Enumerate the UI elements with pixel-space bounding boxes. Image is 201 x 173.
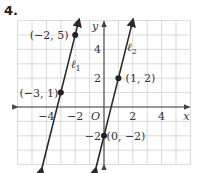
y-axis-label: y [91,20,99,33]
point-label: (0, −2) [107,130,146,143]
y-tick-label: 4 [94,43,101,56]
coordinate-plane: −4−224−224Oxy(−2, 5)(−3, 1)(1, 2)(0, −2)… [0,0,201,173]
point-label: (1, 2) [126,72,156,85]
x-axis-label: x [183,110,190,123]
point [115,75,121,81]
x-tick-label: −2 [67,110,83,123]
line-label: ℓ1 [71,58,81,73]
x-tick-label: 2 [129,110,136,123]
line-label: ℓ2 [127,41,137,56]
x-tick-label: −4 [38,110,54,123]
point-label: (−3, 1) [19,87,58,100]
y-tick-label: 2 [94,72,101,85]
y-tick-label: −2 [85,130,101,143]
point-label: (−2, 5) [30,29,69,42]
point [58,90,64,96]
x-tick-label: 4 [158,110,165,123]
point [72,32,78,38]
origin-label: O [91,110,100,123]
